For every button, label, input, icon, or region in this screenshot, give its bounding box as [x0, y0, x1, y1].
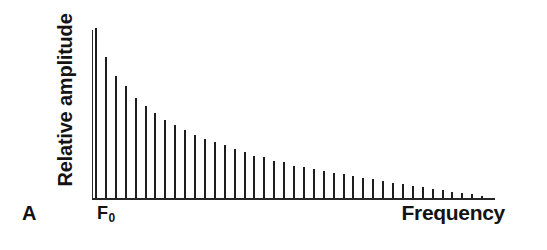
harmonic-bar: [461, 193, 463, 198]
harmonic-bar: [125, 86, 127, 198]
harmonic-bar: [224, 145, 226, 198]
harmonic-bar: [194, 135, 196, 198]
source-spectrum-figure: A Relative amplitude F0 Frequency: [0, 0, 547, 250]
harmonic-bar: [154, 113, 156, 198]
harmonic-bar: [164, 120, 166, 198]
x-axis-title: Frequency: [402, 202, 506, 223]
panel-label-a: A: [22, 203, 37, 223]
harmonic-bar: [303, 167, 305, 198]
harmonic-bar: [412, 186, 414, 198]
harmonic-bar: [362, 178, 364, 198]
harmonic-bar: [442, 190, 444, 198]
harmonic-bar: [283, 162, 285, 198]
harmonic-bar: [323, 171, 325, 198]
x-axis-tick-f0-subscript: 0: [109, 211, 116, 225]
harmonic-bar: [214, 142, 216, 198]
harmonic-bar: [352, 176, 354, 198]
harmonic-bar: [451, 192, 453, 198]
plot-area: [92, 28, 497, 200]
x-axis-tick-f0-base: F: [97, 203, 108, 223]
harmonic-bar: [471, 194, 473, 198]
harmonic-bar: [372, 179, 374, 198]
harmonic-bar: [135, 98, 137, 198]
harmonic-bar: [115, 76, 117, 198]
harmonic-bar: [253, 156, 255, 199]
x-axis-line: [92, 198, 495, 200]
harmonic-bar: [174, 125, 176, 198]
harmonic-bar: [184, 130, 186, 198]
harmonic-bar: [382, 181, 384, 198]
x-axis-tick-f0: F0: [97, 204, 115, 222]
harmonic-bar: [313, 169, 315, 198]
harmonic-bar: [273, 161, 275, 198]
harmonic-bar: [432, 189, 434, 198]
harmonic-bar: [392, 183, 394, 198]
harmonic-bar: [333, 173, 335, 199]
harmonic-bars-group: [92, 28, 497, 198]
harmonic-bar: [204, 139, 206, 199]
harmonic-bar: [263, 157, 265, 198]
harmonic-bar: [95, 28, 97, 198]
harmonic-bar: [145, 106, 147, 198]
harmonic-bar: [105, 57, 107, 198]
harmonic-bar: [244, 152, 246, 198]
harmonic-bar: [481, 196, 483, 198]
y-axis-title-container: Relative amplitude: [48, 0, 82, 200]
harmonic-bar: [343, 174, 345, 198]
y-axis-title: Relative amplitude: [55, 13, 75, 186]
harmonic-bar: [402, 184, 404, 198]
harmonic-bar: [293, 166, 295, 198]
harmonic-bar: [422, 187, 424, 198]
harmonic-bar: [234, 149, 236, 198]
